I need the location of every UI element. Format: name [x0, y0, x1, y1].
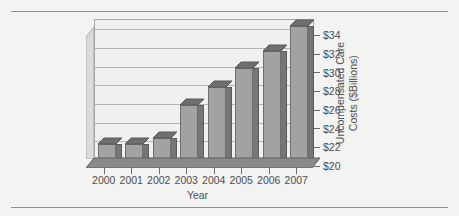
x-axis-tick	[159, 167, 160, 174]
x-axis-tick	[131, 167, 132, 174]
x-tick-label: 2006	[257, 174, 280, 186]
bar-top-face	[235, 68, 253, 74]
y-tick-mark	[314, 72, 320, 73]
bar-top-face	[153, 138, 171, 144]
bar	[208, 87, 226, 159]
x-axis-tick	[296, 167, 297, 174]
bar-top-face	[125, 144, 143, 150]
bar-top-face	[290, 26, 308, 32]
bar	[153, 138, 171, 159]
bar-front-face	[263, 51, 281, 159]
figure-container: $20$22$24$26$28$30$32$34 Uncompensated C…	[0, 0, 459, 216]
bar-top-face	[98, 144, 116, 150]
bar-side-face	[171, 138, 177, 159]
x-axis-tick	[186, 167, 187, 174]
x-tick-label: 2005	[230, 174, 253, 186]
bar	[235, 68, 253, 159]
x-tick-label: 2007	[285, 174, 308, 186]
bar-chart	[86, 19, 314, 167]
bar-side-face	[281, 51, 287, 159]
x-tick-label: 2000	[92, 174, 115, 186]
clipped-title	[0, 0, 459, 4]
x-axis-tick	[104, 167, 105, 174]
y-tick-mark	[314, 110, 320, 111]
bar-top-face	[180, 105, 198, 111]
x-tick-label: 2001	[120, 174, 143, 186]
x-axis-tick	[269, 167, 270, 174]
plot-area-floor	[86, 157, 314, 167]
bar-front-face	[208, 87, 226, 159]
bar-side-face	[226, 87, 232, 159]
bar	[290, 26, 308, 159]
bar-side-face	[198, 105, 204, 159]
x-axis-tick	[214, 167, 215, 174]
x-axis-tick	[241, 167, 242, 174]
bar-top-face	[263, 51, 281, 57]
y-tick-mark	[314, 128, 320, 129]
bar	[180, 105, 198, 159]
y-tick-mark	[314, 91, 320, 92]
bar-front-face	[235, 68, 253, 159]
x-tick-label: 2004	[202, 174, 225, 186]
bar-group	[94, 19, 314, 159]
x-tick-label: 2002	[147, 174, 170, 186]
bottom-divider-rule	[11, 207, 448, 208]
bar-side-face	[253, 68, 259, 159]
x-axis-title: Year	[0, 189, 459, 201]
x-tick-label: 2003	[175, 174, 198, 186]
bar-front-face	[180, 105, 198, 159]
top-divider-rule	[11, 11, 448, 12]
x-axis-labels: 20002001200220032004200520062007	[86, 174, 322, 188]
bar-top-face	[208, 87, 226, 93]
y-axis-title: Uncompensated Care Costs ($Billions)	[330, 18, 364, 168]
plot-area-side-wall	[86, 27, 94, 159]
y-tick-mark	[314, 147, 320, 148]
y-tick-mark	[314, 54, 320, 55]
bar	[263, 51, 281, 159]
x-axis-ticks	[86, 167, 322, 174]
y-tick-mark	[314, 35, 320, 36]
bar-front-face	[290, 26, 308, 159]
